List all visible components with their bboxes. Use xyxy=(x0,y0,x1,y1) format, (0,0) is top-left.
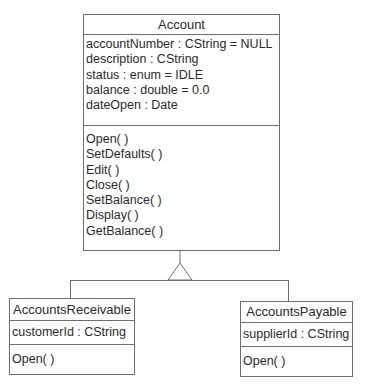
attribute: supplierId : CString xyxy=(243,323,352,345)
class-name: AccountsReceivable xyxy=(10,299,134,321)
method: Close( ) xyxy=(86,178,279,193)
attributes-section: customerId : CString xyxy=(10,321,134,345)
method: Display( ) xyxy=(86,208,279,223)
method: Open( ) xyxy=(12,345,134,373)
attribute: dateOpen : Date xyxy=(86,98,279,113)
method: Open( ) xyxy=(86,132,279,147)
generalization-arrow-icon xyxy=(168,263,192,280)
attribute: status : enum = IDLE xyxy=(86,68,279,83)
attributes-section: supplierId : CString xyxy=(241,323,352,347)
method: GetBalance( ) xyxy=(86,224,279,239)
method: Open( ) xyxy=(243,347,352,375)
methods-section: Open( ) xyxy=(10,345,134,373)
attribute: accountNumber : CString = NULL xyxy=(86,37,279,52)
class-accounts-receivable: AccountsReceivable customerId : CString … xyxy=(9,298,135,375)
class-name: Account xyxy=(84,15,279,35)
methods-section: Open( ) xyxy=(241,347,352,375)
method: Edit( ) xyxy=(86,163,279,178)
class-account: Account accountNumber : CString = NULL d… xyxy=(83,14,280,251)
class-name: AccountsPayable xyxy=(241,302,352,323)
attributes-section: accountNumber : CString = NULL descripti… xyxy=(84,35,279,126)
attribute: balance : double = 0.0 xyxy=(86,83,279,98)
attribute: description : CString xyxy=(86,52,279,67)
methods-section: Open( ) SetDefaults( ) Edit( ) Close( ) … xyxy=(84,126,279,239)
method: SetBalance( ) xyxy=(86,193,279,208)
method: SetDefaults( ) xyxy=(86,147,279,162)
attribute: customerId : CString xyxy=(12,321,134,343)
class-accounts-payable: AccountsPayable supplierId : CString Ope… xyxy=(240,301,353,377)
